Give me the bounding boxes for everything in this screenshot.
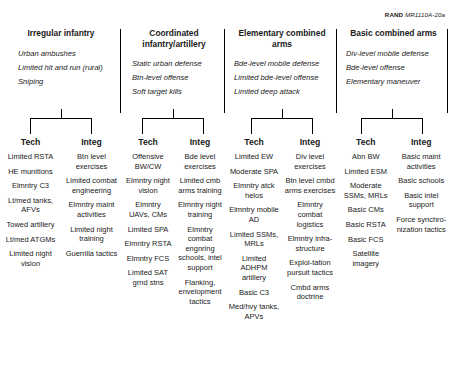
- list-item: Elmntry C3: [2, 181, 59, 191]
- mission-item: Sniping: [4, 75, 118, 89]
- capability-progression-diagram: RAND MR1110A-20a Irregular infantry Urba…: [0, 0, 449, 374]
- list-item: Basic C3: [228, 288, 280, 298]
- document-id-label: MR1110A-20a: [405, 11, 445, 18]
- list-item: Moderate SSMs, MRLs: [340, 181, 392, 200]
- mission-item: Div-level mobile defense: [342, 47, 445, 61]
- source-credit: RAND MR1110A-20a: [385, 11, 445, 18]
- mission-item: Btn-level offense: [126, 71, 222, 85]
- bracket-stem: [282, 109, 283, 119]
- subcolumn-tech-1: Tech Limited RSTA HE munitions Elmntry C…: [0, 136, 61, 326]
- subcolumn-integ-3: Integ Div level exercises Btn level cmbd…: [282, 136, 338, 326]
- list-item: Basic maint activities: [396, 152, 448, 171]
- list-item: Limited SAT grnd stns: [124, 268, 172, 287]
- list-item: HE munitions: [2, 167, 59, 177]
- category-mission-list: Bde-level mobile defense Limited bde-lev…: [230, 57, 334, 99]
- category-header-band: Irregular infantry Urban ambushes Limite…: [0, 28, 449, 99]
- subcolumn-item-list: Bde level exercises Limited cmb arms tra…: [176, 152, 224, 306]
- list-item: Elmntry night training: [176, 200, 224, 219]
- subcolumn-item-list: Basic maint activities Basic schools Bas…: [396, 152, 448, 234]
- tech-integ-group-coordinated-infantry-artillery: Tech Offensive BW/CW Elmntry night visio…: [122, 136, 226, 326]
- list-item: Elmntry atck helos: [228, 181, 280, 200]
- subcolumn-tech-2: Tech Offensive BW/CW Elmntry night visio…: [122, 136, 174, 326]
- publisher-label: RAND: [385, 11, 403, 18]
- category-column-coordinated-infantry-artillery: Coordinated infantry/artillery Static ur…: [122, 28, 226, 99]
- list-item: Basic intel support: [396, 191, 448, 210]
- category-title: Elementary combined arms: [230, 28, 334, 49]
- list-item: Elmntry FCS: [124, 254, 172, 264]
- mission-item: Static urban defense: [126, 57, 222, 71]
- category-column-irregular-infantry: Irregular infantry Urban ambushes Limite…: [0, 28, 122, 99]
- subcolumn-title: Tech: [340, 136, 392, 148]
- subcolumn-tech-4: Tech Abn BW Limited ESM Moderate SSMs, M…: [338, 136, 394, 326]
- list-item: Elmntry combat logistics: [284, 200, 336, 229]
- list-item: Limited ADHPM artillery: [228, 254, 280, 283]
- list-item: Btn level exercises: [63, 152, 120, 171]
- subcolumn-title: Integ: [396, 136, 448, 148]
- list-item: Flanking, envelopment tactics: [176, 278, 224, 307]
- category-mission-list: Urban ambushes Limited hit and run (rura…: [4, 47, 118, 89]
- category-title: Basic combined arms: [342, 28, 445, 39]
- list-item: Elmntry RSTA: [124, 239, 172, 249]
- bracket-connector-1: [30, 118, 92, 134]
- subcolumn-item-list: Offensive BW/CW Elmntry night vision Elm…: [124, 152, 172, 288]
- list-item: Basic RSTA: [340, 220, 392, 230]
- list-item: Med/hvy tanks, APVs: [228, 302, 280, 321]
- bracket-connector-3: [251, 118, 313, 134]
- list-item: Elmntry night vision: [124, 176, 172, 195]
- list-item: Cmbd arms doctrine: [284, 283, 336, 302]
- list-item: Btn level cmbd arms exercises: [284, 176, 336, 195]
- list-item: Limited cmb arms training: [176, 176, 224, 195]
- bracket-connector-4: [361, 118, 423, 134]
- list-item: Elmntry mobile AD: [228, 205, 280, 224]
- list-item: Limited RSTA: [2, 152, 59, 162]
- list-item: Limited combat engineering: [63, 176, 120, 195]
- subcolumn-item-list: Btn level exercises Limited combat engin…: [63, 152, 120, 258]
- subcolumn-title: Integ: [63, 136, 120, 148]
- list-item: Basic schools: [396, 176, 448, 186]
- list-item: Bde level exercises: [176, 152, 224, 171]
- list-item: Force synchro-nization tactics: [396, 215, 448, 234]
- category-mission-list: Div-level mobile defense Bde-level offen…: [342, 47, 445, 89]
- tech-integ-group-elementary-combined-arms: Tech Limited EW Moderate SPA Elmntry atc…: [226, 136, 338, 326]
- list-item: Limited ESM: [340, 167, 392, 177]
- list-item: Abn BW: [340, 152, 392, 162]
- subcolumn-tech-3: Tech Limited EW Moderate SPA Elmntry atc…: [226, 136, 282, 326]
- subcolumn-title: Tech: [124, 136, 172, 148]
- mission-item: Bde-level offense: [342, 61, 445, 75]
- list-item: Elmntry UAVs, CMs: [124, 200, 172, 219]
- subcolumn-item-list: Div level exercises Btn level cmbd arms …: [284, 152, 336, 302]
- category-column-elementary-combined-arms: Elementary combined arms Bde-level mobil…: [226, 28, 338, 99]
- category-mission-list: Static urban defense Btn-level offense S…: [126, 57, 222, 99]
- list-item: Limited SSMs, MRLs: [228, 230, 280, 249]
- subcolumn-integ-4: Integ Basic maint activities Basic schoo…: [394, 136, 449, 326]
- list-item: Lt/med tanks, AFVs: [2, 196, 59, 215]
- list-item: Elmntry maint activities: [63, 200, 120, 219]
- tech-integ-group-irregular-infantry: Tech Limited RSTA HE munitions Elmntry C…: [0, 136, 122, 326]
- mission-item: Limited hit and run (rural): [4, 61, 118, 75]
- list-item: Limited SPA: [124, 225, 172, 235]
- list-item: Offensive BW/CW: [124, 152, 172, 171]
- list-item: Towed artillery: [2, 220, 59, 230]
- mission-item: Limited bde-level offense: [230, 71, 334, 85]
- bracket-stem: [61, 109, 62, 119]
- list-item: Moderate SPA: [228, 167, 280, 177]
- mission-item: Elementary maneuver: [342, 75, 445, 89]
- tech-integ-band: Tech Limited RSTA HE munitions Elmntry C…: [0, 136, 449, 326]
- mission-item: Urban ambushes: [4, 47, 118, 61]
- mission-item: Bde-level mobile defense: [230, 57, 334, 71]
- subcolumn-item-list: Limited EW Moderate SPA Elmntry atck hel…: [228, 152, 280, 321]
- list-item: Guerrilla tactics: [63, 249, 120, 259]
- bracket-connector-2: [142, 118, 204, 134]
- category-title: Irregular infantry: [4, 28, 118, 39]
- list-item: Lt/med ATGMs: [2, 235, 59, 245]
- subcolumn-item-list: Abn BW Limited ESM Moderate SSMs, MRLs B…: [340, 152, 392, 268]
- category-title: Coordinated infantry/artillery: [126, 28, 222, 49]
- list-item: Satellite imagery: [340, 249, 392, 268]
- category-column-basic-combined-arms: Basic combined arms Div-level mobile def…: [338, 28, 449, 99]
- subcolumn-title: Integ: [284, 136, 336, 148]
- subcolumn-item-list: Limited RSTA HE munitions Elmntry C3 Lt/…: [2, 152, 59, 268]
- subcolumn-integ-2: Integ Bde level exercises Limited cmb ar…: [174, 136, 226, 326]
- list-item: Elmntry combat engnring schools, intel s…: [176, 225, 224, 273]
- mission-item: Limited deep attack: [230, 85, 334, 99]
- bracket-stem: [392, 109, 393, 119]
